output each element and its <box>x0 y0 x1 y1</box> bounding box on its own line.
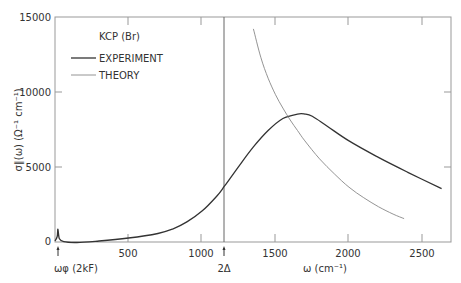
x-axis-label: ω (cm⁻¹) <box>303 263 347 274</box>
x-ticks <box>128 17 422 242</box>
plot-frame <box>55 17 451 242</box>
y-tick-label: 5000 <box>26 162 51 173</box>
x-tick-label: 2500 <box>409 248 434 259</box>
x-tick-label: 1500 <box>262 248 287 259</box>
y-tick-label: 0 <box>45 236 51 247</box>
legend-label-theory: THEORY <box>98 70 140 81</box>
y-tick-label: 15000 <box>19 12 51 23</box>
y-axis-label: σ∥(ω) (Ω⁻¹ cm⁻¹) <box>13 88 25 171</box>
legend-label-experiment: EXPERIMENT <box>99 53 164 64</box>
gap-label: 2Δ <box>217 263 230 274</box>
x-tick-label: 2000 <box>335 248 360 259</box>
x-tick-label: 1000 <box>188 248 213 259</box>
chart-canvas: 0 5000 10000 15000 500 1000 1500 2000 25… <box>0 0 461 283</box>
phonon-frequency-label: ωφ (2kF) <box>54 263 98 274</box>
y-ticks <box>55 92 451 167</box>
arrow-up-icon <box>223 246 226 256</box>
experiment-curve <box>55 114 442 243</box>
legend-title: KCP (Br) <box>99 31 140 42</box>
arrow-up-icon <box>57 246 60 256</box>
x-tick-label: 500 <box>118 248 137 259</box>
